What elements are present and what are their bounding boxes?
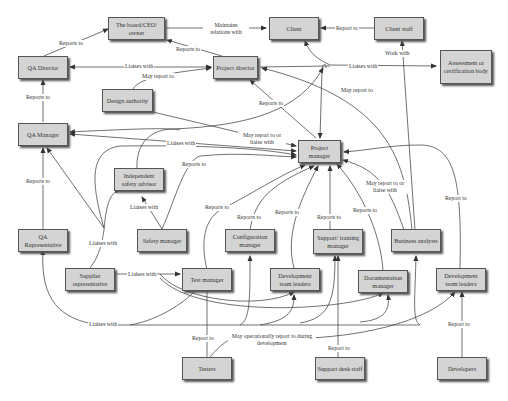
org-relationship-diagram: The board/CEO/ owner Client Client staff… xyxy=(0,0,508,401)
node-test-manager[interactable]: Test manager xyxy=(182,268,232,291)
node-safety-manager[interactable]: Safety manager xyxy=(137,229,187,252)
edge-label-developers-report: Report to xyxy=(447,321,471,328)
node-support-desk-staff[interactable]: Support desk staff xyxy=(315,357,365,380)
edge-label-qa-dir-liaises-pd: Liaises with xyxy=(124,63,154,70)
edge-label-testers-may-report: May operationally report to during devel… xyxy=(228,333,316,347)
edge-label-supplier-liaises-test: Liaises with xyxy=(127,271,157,278)
node-board[interactable]: The board/CEO/ owner xyxy=(108,17,165,40)
node-client[interactable]: Client xyxy=(269,17,319,40)
node-support-training-manager[interactable]: Support/ training manager xyxy=(313,229,363,254)
node-configuration-manager[interactable]: Configuration manager xyxy=(225,229,275,252)
node-qa-representative[interactable]: QA Representative xyxy=(18,229,68,252)
edge-label-ba-may-report-pm: May report to or liaise with xyxy=(362,180,408,194)
node-testers[interactable]: Testers xyxy=(182,357,232,380)
edge-label-client-staff-report: Report to xyxy=(335,25,359,32)
edge-label-pd-liaises-assessment: Liaises with xyxy=(348,63,378,70)
edge-label-support-desk-report: Report to xyxy=(327,345,351,352)
edge-label-design-may-report-pm: May report to or liaise with xyxy=(238,132,286,146)
edge-label-maintains-relations: Maintains relations with xyxy=(203,22,249,36)
node-project-manager[interactable]: Project manager xyxy=(298,140,341,163)
edge-label-config-reports: Reports to xyxy=(236,214,262,221)
edge-label-qa-rep-reports: Reports to xyxy=(25,178,51,185)
edge-label-safety-liaises-isa: Liaises with xyxy=(129,204,159,211)
node-independent-safety-advisor[interactable]: Independent safety advisor xyxy=(114,168,164,191)
edge-label-pd-reports-board: Reports to xyxy=(175,46,201,53)
edge-label-dev2-report: Report to xyxy=(444,195,468,202)
edge-label-ba-may-report-pd: May report to xyxy=(340,87,374,94)
edge-label-test-reports: Reports to xyxy=(204,204,230,211)
edge-label-design-may-report: May report to xyxy=(141,73,175,80)
edge-label-qa-dir-reports-board: Reports to xyxy=(58,40,84,47)
edge-label-safety-reports: Reports to xyxy=(181,161,207,168)
edge-label-support-reports: Reports to xyxy=(316,214,342,221)
edge-label-qa-mgr-liaises: Liaises with xyxy=(166,140,196,147)
node-supplier-representative[interactable]: Supplier representative xyxy=(65,268,115,291)
edge-label-work-with: Work with xyxy=(384,50,411,57)
node-dev-team-leaders-2[interactable]: Development team leaders xyxy=(436,268,486,291)
node-design-authority[interactable]: Design authority xyxy=(102,89,153,112)
edge-label-doc-reports: Reports to xyxy=(352,207,378,214)
node-qa-director[interactable]: QA Director xyxy=(18,56,68,79)
edge-label-devlead-reports: Reports to xyxy=(274,209,300,216)
edge-label-testers-report: Report to xyxy=(191,335,215,342)
edge-label-pm-reports-pd: Reports to xyxy=(258,100,284,107)
node-project-director[interactable]: Project director xyxy=(213,56,258,79)
node-business-analysts[interactable]: Business analysts xyxy=(391,229,441,252)
edge-label-qa-mgr-reports-dir: Reports to xyxy=(25,94,51,101)
node-dev-team-leaders-1[interactable]: Development team leaders xyxy=(270,268,320,291)
node-documentation-manager[interactable]: Documentation manager xyxy=(358,270,408,293)
node-client-staff[interactable]: Client staff xyxy=(374,17,424,40)
node-developers[interactable]: Developers xyxy=(437,357,487,380)
edge-label-qa-rep-liaises: Liaises with xyxy=(88,321,118,328)
node-assessment-body[interactable]: Assessment or certification body xyxy=(440,50,492,84)
node-qa-manager[interactable]: QA Manager xyxy=(18,123,68,146)
edge-label-supplier-liaises-many: Liaises with xyxy=(88,240,118,247)
